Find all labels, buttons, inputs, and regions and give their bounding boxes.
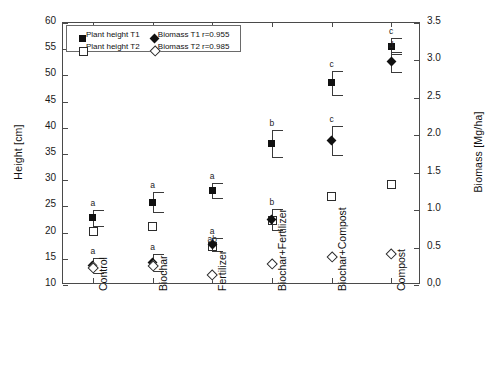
x-axis-category-label: Compost	[395, 249, 407, 291]
y-axis-left-tick	[63, 102, 68, 103]
y-axis-right-tick	[414, 173, 419, 174]
legend-label-biomass-t1: Biomass T1	[158, 30, 202, 39]
significance-letter: d	[389, 40, 394, 50]
marker-filled-diamond	[327, 136, 337, 146]
error-bar-cap	[272, 157, 283, 158]
error-bar-cap	[332, 155, 343, 156]
x-axis-tick	[272, 278, 273, 283]
plot-area: aaabccabaaabcd	[62, 22, 420, 284]
legend-row-1: Plant height T1 Biomass T1 r=0.955	[72, 29, 236, 40]
y-axis-right-tick-label: 3.0	[427, 52, 461, 63]
y-axis-left-tick-label: 20	[22, 225, 56, 236]
y-axis-right-tick	[414, 60, 419, 61]
y-axis-right-tick	[414, 135, 419, 136]
x-axis-category-label: Fertilizer	[216, 251, 228, 291]
significance-letter: a	[150, 242, 155, 252]
error-bar-cap	[391, 38, 402, 39]
y-axis-left-tick	[63, 206, 68, 207]
legend-row-2: Plant height T2 Biomass T2 r=0.985	[72, 41, 236, 52]
error-bar-cap	[212, 238, 223, 239]
significance-letter: a	[90, 198, 95, 208]
y-axis-left-tick-label: 25	[22, 198, 56, 209]
marker-filled-square	[328, 79, 335, 86]
y-axis-right-tick	[414, 285, 419, 286]
marker-filled-square	[268, 140, 275, 147]
significance-letter: c	[329, 114, 333, 124]
y-axis-left-tick	[63, 285, 68, 286]
x-axis-tick-top	[272, 23, 273, 27]
marker-filled-diamond	[386, 57, 396, 67]
error-bar-cap	[212, 183, 223, 184]
y-axis-left-tick-label: 15	[22, 251, 56, 262]
y-axis-right-tick-label: 0,0	[427, 277, 461, 288]
y-axis-left-tick-label: 10	[22, 277, 56, 288]
y-axis-right-tick	[414, 210, 419, 211]
marker-filled-square	[149, 199, 156, 206]
y-axis-right-tick	[414, 98, 419, 99]
y-axis-left-tick-label: 50	[22, 67, 56, 78]
y-axis-right-tick-label: 3.5	[427, 15, 461, 26]
significance-letter: a	[90, 246, 95, 256]
x-axis-category-label: Biochar	[157, 255, 169, 291]
error-bar-cap	[332, 71, 343, 72]
marker-open-square	[148, 222, 157, 231]
significance-letter: b	[269, 118, 274, 128]
y-axis-right-tick-label: 1.0	[427, 202, 461, 213]
y-axis-left-tick-label: 35	[22, 146, 56, 157]
y-axis-left-tick	[63, 259, 68, 260]
x-axis-tick	[332, 278, 333, 283]
open-square-icon	[72, 41, 86, 52]
y-axis-left-tick	[63, 75, 68, 76]
marker-filled-square	[89, 214, 96, 221]
legend-r-value-t1: r=0.955	[202, 30, 236, 39]
legend-label-plant-height-t2: Plant height T2	[86, 42, 144, 51]
y-axis-left-tick-label: 45	[22, 94, 56, 105]
filled-diamond-icon	[144, 29, 158, 40]
legend-label-biomass-t2: Biomass T2	[158, 42, 202, 51]
y-axis-left-tick	[63, 128, 68, 129]
error-bar-cap	[391, 72, 402, 73]
x-axis-category-label: Biochar+Compost	[336, 207, 348, 291]
y-axis-right-title: Biomass [Mg/ha]	[472, 97, 484, 207]
y-axis-right-tick-label: 0.5	[427, 240, 461, 251]
significance-letter: c	[389, 26, 393, 36]
marker-open-square	[89, 227, 98, 236]
y-axis-left-tick	[63, 180, 68, 181]
significance-letter: a	[150, 180, 155, 190]
x-axis-tick	[93, 278, 94, 283]
error-bar-cap	[391, 52, 402, 53]
significance-letter: a	[210, 171, 215, 181]
error-bar-cap	[153, 212, 164, 213]
error-bar-cap	[391, 54, 402, 55]
x-axis-tick	[391, 278, 392, 283]
legend-label-plant-height-t1: Plant height T1	[86, 30, 144, 39]
y-axis-right-tick	[414, 23, 419, 24]
error-bar-cap	[153, 192, 164, 193]
error-bar-cap	[272, 130, 283, 131]
x-axis-tick	[153, 278, 154, 283]
y-axis-left-tick-label: 55	[22, 41, 56, 52]
marker-filled-square	[209, 187, 216, 194]
chart-legend: Plant height T1 Biomass T1 r=0.955 Plant…	[66, 25, 241, 52]
error-bar-cap	[332, 95, 343, 96]
y-axis-left-tick-label: 60	[22, 15, 56, 26]
y-axis-right-tick	[414, 248, 419, 249]
y-axis-left-tick-label: 40	[22, 120, 56, 131]
x-axis-category-label: Control	[97, 257, 109, 291]
significance-letter: c	[329, 59, 333, 69]
y-axis-right-tick-label: 2.0	[427, 127, 461, 138]
x-axis-category-label: Biochar+Fertilizer	[276, 209, 288, 291]
y-axis-left-tick	[63, 233, 68, 234]
filled-square-icon	[72, 29, 86, 40]
marker-open-square	[387, 180, 396, 189]
significance-letter: a	[210, 226, 215, 236]
y-axis-right-tick-label: 1.5	[427, 165, 461, 176]
y-axis-left-tick-label: 30	[22, 172, 56, 183]
error-bar-cap	[93, 210, 104, 211]
x-axis-tick-top	[332, 23, 333, 27]
marker-open-square	[327, 192, 336, 201]
y-axis-left-tick	[63, 154, 68, 155]
open-diamond-icon	[144, 41, 158, 52]
error-bar-cap	[212, 198, 223, 199]
significance-letter: b	[269, 197, 274, 207]
